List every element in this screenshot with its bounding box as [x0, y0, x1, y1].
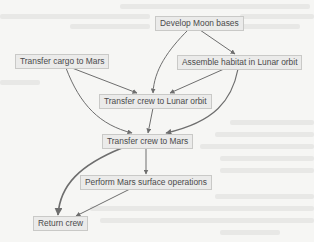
node-transfer-cargo-to-mars: Transfer cargo to Mars	[15, 54, 109, 69]
edge-moon-bases-to-habitat	[200, 30, 235, 54]
edge-surface-ops-to-return-crew	[76, 189, 130, 216]
edge-habitat-to-crew-lunar	[170, 69, 224, 93]
node-transfer-crew-to-lunar-orbit: Transfer crew to Lunar orbit	[99, 94, 212, 109]
node-return-crew: Return crew	[33, 216, 88, 231]
diagram-edges	[0, 0, 314, 242]
edge-crew-lunar-to-crew-mars	[148, 108, 153, 133]
node-perform-mars-surface-operations: Perform Mars surface operations	[80, 175, 212, 190]
node-develop-moon-bases: Develop Moon bases	[155, 16, 244, 31]
edge-cargo-to-crew-lunar	[72, 68, 137, 93]
node-assemble-habitat: Assemble habitat in Lunar orbit	[177, 55, 302, 70]
node-transfer-crew-to-mars: Transfer crew to Mars	[102, 134, 193, 149]
